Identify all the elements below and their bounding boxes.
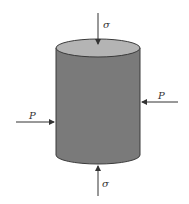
cylinder-diagram: σ σ P P [0, 0, 189, 204]
sigma-bottom-label: σ [102, 178, 110, 189]
sigma-top-label: σ [103, 19, 111, 30]
p-right-label: P [157, 90, 165, 101]
cylinder [56, 39, 140, 164]
p-left-label: P [28, 110, 36, 121]
diagram: σ σ P P [0, 0, 189, 204]
